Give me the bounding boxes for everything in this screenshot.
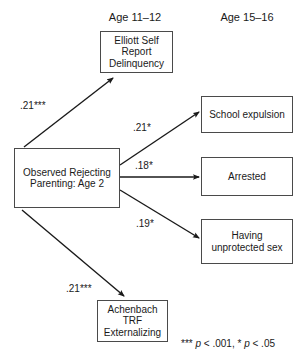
- legend-value-high: < .001,: [204, 338, 238, 349]
- node-label-arrested: Arrested: [204, 171, 290, 183]
- column-header-age-15-16: Age 15–16: [213, 11, 281, 24]
- path-label-predictor-to-unprotected-sex: .19*: [136, 218, 154, 230]
- node-box-predictor[interactable]: Observed Rejecting Parenting: Age 2: [14, 148, 120, 208]
- column-header-age-11-12: Age 11–12: [103, 11, 167, 24]
- node-label-predictor: Observed Rejecting Parenting: Age 2: [17, 167, 117, 190]
- path-label-predictor-to-expulsion: .21*: [133, 122, 151, 134]
- node-box-unprotected-sex[interactable]: Having unprotected sex: [201, 219, 293, 264]
- path-diagram: Age 11–12 Age 15–16 Elliott Self Report …: [0, 0, 300, 359]
- significance-legend: *** p < .001, * p < .05: [181, 338, 275, 350]
- node-box-arrested[interactable]: Arrested: [201, 157, 293, 196]
- legend-value-low: < .05: [252, 338, 275, 349]
- node-box-delinquency[interactable]: Elliott Self Report Delinquency: [100, 31, 173, 73]
- path-arrow-predictor-to-delinquency: [24, 78, 113, 147]
- legend-stars-high: ***: [181, 338, 193, 349]
- node-box-externalizing[interactable]: Achenbach TRF Externalizing: [97, 300, 168, 342]
- path-label-predictor-to-externalizing: .21***: [66, 283, 92, 295]
- path-arrow-predictor-to-unprotected-sex: [120, 190, 199, 238]
- node-label-unprotected-sex: Having unprotected sex: [204, 230, 290, 253]
- node-label-delinquency: Elliott Self Report Delinquency: [103, 35, 170, 70]
- path-label-predictor-to-arrested: .18*: [135, 160, 153, 172]
- node-label-expulsion: School expulsion: [204, 109, 290, 121]
- path-label-predictor-to-delinquency: .21***: [20, 100, 46, 112]
- node-box-expulsion[interactable]: School expulsion: [201, 96, 293, 133]
- node-label-externalizing: Achenbach TRF Externalizing: [100, 304, 165, 339]
- path-arrow-predictor-to-expulsion: [120, 112, 199, 165]
